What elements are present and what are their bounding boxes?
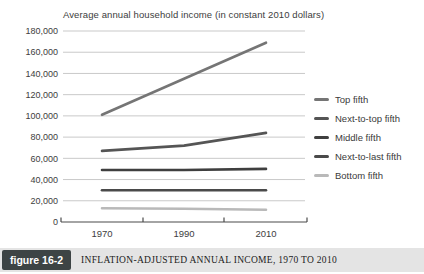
y-tick-label: 20,000 [30, 196, 58, 206]
series-line-top-fifth [102, 43, 266, 115]
y-tick-label: 40,000 [30, 175, 58, 185]
legend-label: Next-to-top fifth [335, 113, 400, 124]
legend-row: Top fifth [314, 90, 402, 109]
y-tick-label: 140,000 [25, 69, 58, 79]
legend-marker-icon [314, 136, 329, 139]
x-tick-label: 1970 [91, 228, 112, 239]
caption-text: INFLATION-ADJUSTED ANNUAL INCOME, 1970 T… [81, 255, 337, 265]
y-tick-label: 160,000 [25, 47, 58, 57]
y-tick-label: 100,000 [25, 111, 58, 121]
legend-marker-icon [314, 117, 329, 120]
figure-label-badge: figure 16-2 [2, 250, 71, 270]
y-tick-label: 60,000 [30, 154, 58, 164]
y-tick-label: 80,000 [30, 132, 58, 142]
series-line-next-to-top-fifth [102, 133, 266, 151]
legend-row: Middle fifth [314, 128, 402, 147]
series-line-middle-fifth [102, 169, 266, 170]
x-tick-label: 2010 [255, 228, 276, 239]
y-tick-label: 180,000 [25, 26, 58, 36]
figure-16-2-chart: Average annual household income (in cons… [0, 0, 424, 274]
series-line-bottom-fifth [102, 208, 266, 210]
legend-row: Next-to-last fifth [314, 147, 402, 166]
legend-row: Bottom fifth [314, 166, 402, 185]
legend-marker-icon [314, 174, 329, 177]
legend-label: Middle fifth [335, 132, 381, 143]
legend-marker-icon [314, 155, 329, 158]
legend-marker-icon [314, 98, 329, 101]
caption-bar: figure 16-2 INFLATION-ADJUSTED ANNUAL IN… [0, 248, 424, 272]
legend-row: Next-to-top fifth [314, 109, 402, 128]
legend-label: Bottom fifth [335, 170, 383, 181]
y-tick-label: 0 [53, 217, 58, 227]
legend-label: Top fifth [335, 94, 368, 105]
legend-label: Next-to-last fifth [335, 151, 402, 162]
x-tick-label: 1990 [173, 228, 194, 239]
legend: Top fifthNext-to-top fifthMiddle fifthNe… [314, 90, 402, 185]
y-tick-label: 120,000 [25, 90, 58, 100]
